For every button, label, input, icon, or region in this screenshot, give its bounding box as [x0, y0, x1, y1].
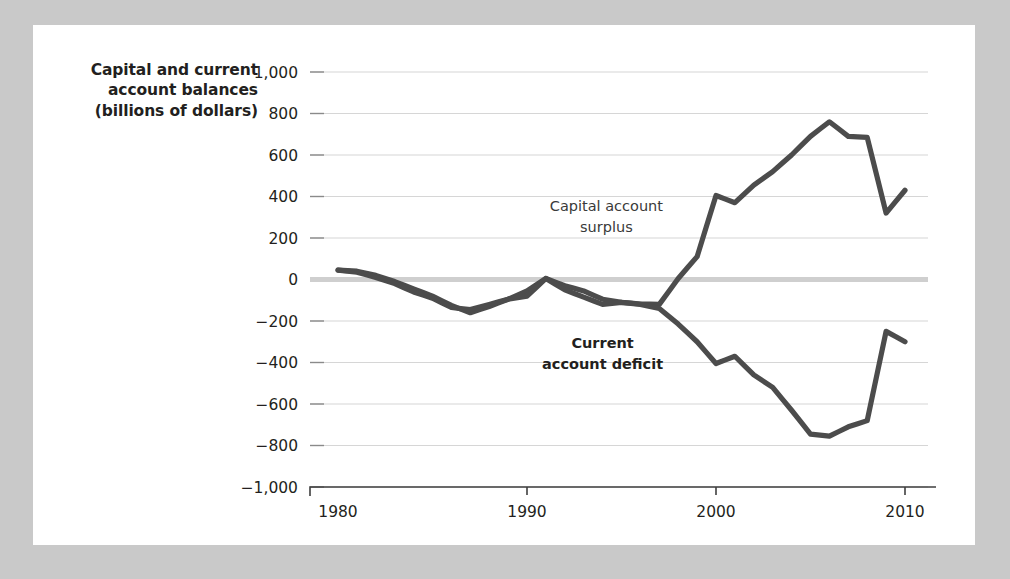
y-tick-label: −400 [255, 354, 298, 372]
x-axis-line [310, 487, 936, 496]
y-tick-label: 600 [268, 147, 298, 165]
x-axis-tick-labels: 1980199020002010 [318, 503, 924, 521]
series-annotation-line-1: Capital account [550, 198, 664, 214]
chart-card: Capital and current account balances (bi… [33, 25, 975, 545]
y-tick-label: −800 [255, 437, 298, 455]
series-annotation-line-1: Current [571, 335, 633, 351]
series-annotation-line-2: account deficit [542, 356, 663, 372]
y-tick-label: 400 [268, 188, 298, 206]
y-tick-label: 1,000 [254, 64, 298, 82]
series-line-capital-account-surplus [338, 122, 905, 313]
x-tick-label: 2010 [885, 503, 924, 521]
figure-root: Capital and current account balances (bi… [0, 0, 1010, 579]
y-tick-label: 800 [268, 105, 298, 123]
y-axis-tick-labels: 1,0008006004002000−200−400−600−800−1,000 [241, 64, 298, 497]
y-tick-label: −200 [255, 313, 298, 331]
series-line-current-account-deficit [338, 270, 905, 436]
x-axis-baseline [310, 487, 936, 496]
y-tick-label: −600 [255, 396, 298, 414]
series-annotation-line-2: surplus [580, 219, 633, 235]
x-tick-label: 1990 [507, 503, 546, 521]
y-tick-label: 200 [268, 230, 298, 248]
line-chart: 1,0008006004002000−200−400−600−800−1,000… [33, 25, 975, 545]
x-tick-label: 1980 [318, 503, 357, 521]
y-tick-label: 0 [288, 271, 298, 289]
y-tick-label: −1,000 [241, 479, 298, 497]
x-tick-label: 2000 [696, 503, 735, 521]
